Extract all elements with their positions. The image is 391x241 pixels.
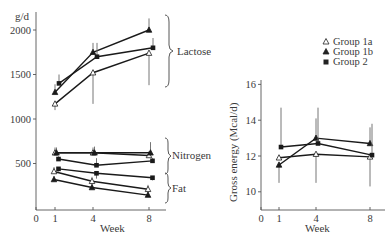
x-tick-label: 4 — [90, 213, 96, 224]
y-tick-label: 14 — [246, 115, 257, 126]
legend-label: Group 2 — [333, 56, 368, 67]
square-marker — [370, 153, 375, 158]
nitrogen-bracket — [165, 138, 171, 174]
series-fat-group-1b — [51, 176, 151, 197]
x-tick-label: 0 — [33, 213, 38, 224]
series-line — [55, 30, 149, 92]
square-marker — [56, 167, 61, 172]
left-chart: g/d 5001000150020000148 Week Lactose Nit… — [10, 10, 212, 234]
right-x-axis-title: Week — [305, 222, 330, 234]
figure: g/d 5001000150020000148 Week Lactose Nit… — [0, 0, 391, 241]
left-axes: 5001000150020000148 — [10, 12, 166, 224]
square-marker — [56, 157, 61, 162]
right-chart: 101214160148 Week Gross energy (Mcal/d) — [227, 79, 385, 234]
x-tick-label: 8 — [146, 213, 151, 224]
series-line — [59, 48, 153, 84]
right-series — [276, 108, 374, 187]
fat-label: Fat — [172, 182, 186, 194]
filled-triangle-icon — [323, 49, 329, 55]
right-axes: 101214160148 — [246, 79, 386, 224]
right-y-axis-title: Gross energy (Mcal/d) — [227, 102, 240, 202]
y-tick-label: 1000 — [10, 114, 31, 125]
filled-triangle-marker — [51, 176, 57, 181]
series-fat-group-1a — [51, 167, 151, 191]
fat-bracket — [165, 173, 171, 203]
y-tick-label: 2000 — [10, 25, 31, 36]
x-tick-label: 0 — [258, 213, 263, 224]
y-tick-label: 500 — [15, 158, 31, 169]
square-icon — [324, 60, 329, 65]
open-triangle-marker — [51, 168, 57, 173]
series-nitrogen-group-2 — [56, 156, 155, 167]
legend-item-group-2: Group 2 — [324, 56, 368, 67]
series-lactose-group-2 — [57, 38, 156, 86]
open-triangle-marker — [146, 50, 152, 55]
x-tick-label: 1 — [52, 213, 57, 224]
y-tick-label: 12 — [246, 151, 257, 162]
series-group-2 — [279, 108, 375, 158]
y-tick-label: 1500 — [10, 69, 31, 80]
series-line — [59, 159, 153, 165]
square-marker — [94, 171, 99, 176]
y-tick-label: 16 — [246, 79, 257, 90]
square-marker — [316, 141, 321, 146]
series-line — [55, 53, 149, 104]
y-tick-label: 10 — [246, 186, 257, 197]
square-marker — [150, 175, 155, 180]
chart-canvas: g/d 5001000150020000148 Week Lactose Nit… — [0, 0, 391, 241]
open-triangle-icon — [323, 39, 329, 45]
square-marker — [150, 159, 155, 164]
series-group-1b — [276, 118, 373, 182]
square-marker — [94, 163, 99, 168]
left-y-unit: g/d — [15, 10, 30, 22]
filled-triangle-marker — [146, 27, 152, 32]
lactose-label: Lactose — [177, 45, 211, 57]
square-marker — [151, 46, 156, 51]
legend: Group 1a Group 1b Group 2 — [323, 36, 373, 67]
x-tick-label: 8 — [367, 213, 372, 224]
square-marker — [279, 145, 284, 150]
lactose-bracket — [165, 15, 173, 87]
series-nitrogen-group-1b — [54, 142, 154, 155]
left-series — [51, 18, 155, 197]
left-x-axis-title: Week — [100, 222, 125, 234]
square-marker — [95, 54, 100, 59]
series-fat-group-2 — [56, 167, 155, 181]
nitrogen-label: Nitrogen — [172, 149, 212, 161]
x-tick-label: 1 — [276, 213, 281, 224]
square-marker — [57, 81, 62, 86]
